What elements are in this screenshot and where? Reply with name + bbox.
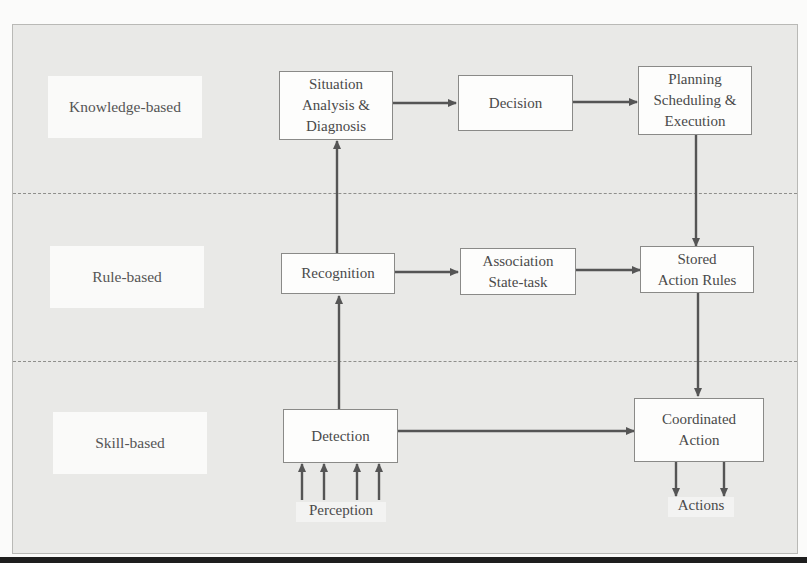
node-text: Diagnosis [306,116,366,137]
node-text: Situation [309,74,363,95]
node-stored-rules: Stored Action Rules [640,246,754,293]
node-text: Recognition [301,263,374,284]
node-text: Planning [668,69,721,90]
scan-edge-bar [0,557,807,563]
node-coordinated-action: Coordinated Action [634,398,764,462]
node-text: State-task [488,272,547,293]
node-text: Action Rules [658,270,737,291]
node-text: Scheduling & [654,90,737,111]
node-planning: Planning Scheduling & Execution [638,66,752,135]
node-text: Decision [489,93,542,114]
node-text: Association [483,251,554,272]
actions-label: Actions [668,497,734,517]
node-text: Detection [311,426,369,447]
node-situation-analysis: Situation Analysis & Diagnosis [279,71,393,140]
node-text: Stored [677,249,716,270]
node-text: Analysis & [302,95,370,116]
node-recognition: Recognition [281,253,395,294]
node-decision: Decision [458,75,573,131]
node-text: Coordinated [662,409,736,430]
perception-label: Perception [296,502,386,522]
node-association: Association State-task [460,248,576,295]
perception-text: Perception [309,502,373,518]
actions-text: Actions [678,497,725,513]
node-text: Execution [665,111,726,132]
node-detection: Detection [283,409,398,463]
node-text: Action [679,430,720,451]
